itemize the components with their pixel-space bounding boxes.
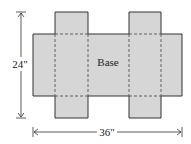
width-label: 36" xyxy=(99,126,115,138)
box-net-diagram: Base 24" 36" xyxy=(0,0,191,144)
height-label: 24" xyxy=(12,58,28,70)
base-label: Base xyxy=(97,56,119,68)
